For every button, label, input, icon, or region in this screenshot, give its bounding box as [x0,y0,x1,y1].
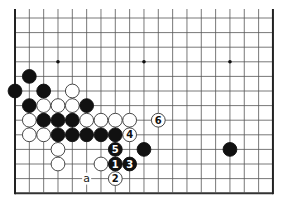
black-stone [65,113,79,127]
black-stone [51,113,65,127]
white-stone [65,84,79,98]
white-stone-2: 2 [108,172,122,186]
white-stone [37,128,51,142]
black-stone-5: 5 [108,143,122,157]
black-stone [223,143,237,157]
white-stone [37,99,51,113]
stone-body [80,128,94,142]
move-number: 1 [112,159,119,170]
white-stone [51,99,65,113]
stone-body [65,84,79,98]
stone-body [65,128,79,142]
stone-body [37,113,51,127]
stone-body [65,113,79,127]
stone-body [94,128,108,142]
stone-body [137,143,151,157]
stone-body [94,157,108,171]
black-stone [80,128,94,142]
stone-body [80,99,94,113]
move-number: 2 [112,173,119,184]
white-stone [22,113,36,127]
black-stone [37,113,51,127]
move-number: 5 [112,144,119,155]
black-stone-3: 3 [123,157,137,171]
stone-body [37,128,51,142]
stone-body [223,143,237,157]
white-stone [51,143,65,157]
black-stone [22,99,36,113]
stone-body [22,128,36,142]
white-stone [65,99,79,113]
go-board: 645132 a [0,0,281,208]
stone-body [108,128,122,142]
white-stone [22,128,36,142]
black-stone [108,128,122,142]
white-stone [94,157,108,171]
stone-body [51,99,65,113]
black-stone [94,128,108,142]
black-stone [8,84,22,98]
star-point [56,60,60,64]
white-stone-6: 6 [151,113,165,127]
move-number: 6 [155,115,162,126]
black-stone-1: 1 [108,157,122,171]
stone-body [51,128,65,142]
stone-body [94,113,108,127]
black-stone [65,128,79,142]
white-stone [123,113,137,127]
white-stone [80,113,94,127]
white-stone-4: 4 [123,128,137,142]
point-label-a: a [83,172,90,185]
move-number: 3 [126,159,133,170]
star-point [142,60,146,64]
stone-body [37,99,51,113]
black-stone [51,128,65,142]
stone-body [123,113,137,127]
black-stone [137,143,151,157]
stones-layer: 645132 [8,70,237,186]
stone-body [80,113,94,127]
stone-body [37,84,51,98]
white-stone [51,157,65,171]
move-number: 4 [126,129,133,140]
black-stone [37,84,51,98]
white-stone [94,113,108,127]
stone-body [22,113,36,127]
black-stone [80,99,94,113]
stone-body [22,99,36,113]
stone-body [51,157,65,171]
stone-body [8,84,22,98]
stone-body [51,143,65,157]
stone-body [22,70,36,84]
black-stone [22,70,36,84]
white-stone [108,113,122,127]
markers-layer: a [82,172,91,185]
stone-body [51,113,65,127]
stone-body [108,113,122,127]
stone-body [65,99,79,113]
star-point [228,60,232,64]
